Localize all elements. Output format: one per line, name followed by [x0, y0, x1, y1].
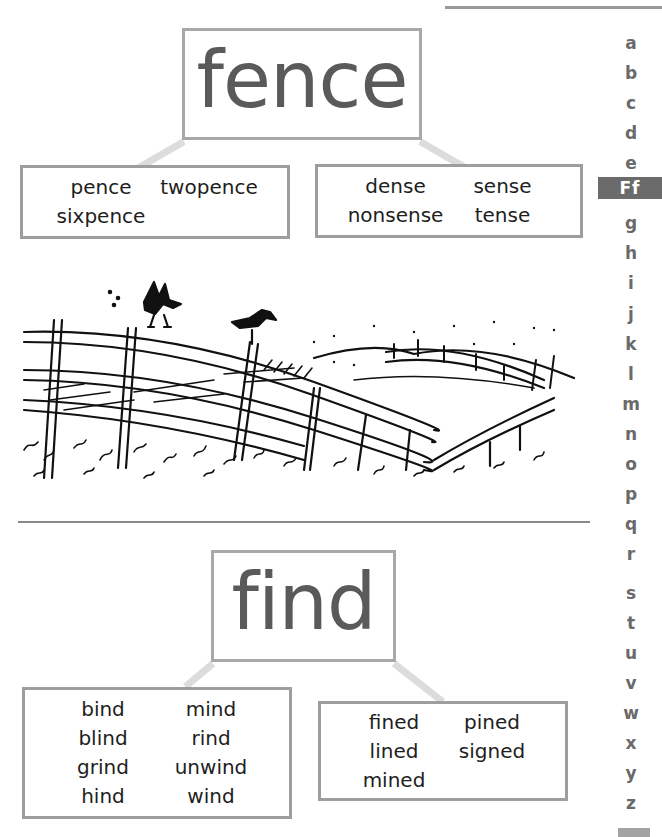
headword: find	[231, 563, 375, 641]
word-group-box: dense sense nonsense tense	[315, 164, 583, 238]
alpha-index-u[interactable]: u	[600, 642, 662, 664]
word: pence	[47, 173, 155, 202]
alpha-index-p[interactable]: p	[600, 483, 662, 505]
word: mined	[345, 766, 443, 795]
headword-box-fence: fence	[182, 28, 422, 140]
word: hind	[49, 782, 157, 811]
alpha-index-m[interactable]: m	[600, 393, 662, 415]
headword: fence	[197, 41, 408, 119]
bird-icon	[232, 310, 276, 344]
alpha-index-i[interactable]: i	[600, 272, 662, 294]
bird-icon	[144, 282, 181, 327]
alpha-index-f-current[interactable]: Ff	[598, 177, 662, 199]
page-tab-marker	[618, 828, 650, 837]
word-group-box: bind mind blind rind grind unwind hind w…	[22, 687, 292, 819]
section-divider	[18, 521, 590, 523]
word: tense	[449, 201, 556, 230]
alpha-index-l[interactable]: l	[600, 363, 662, 385]
alpha-index-a[interactable]: a	[600, 32, 662, 54]
alpha-index-q[interactable]: q	[600, 513, 662, 535]
alpha-index-x[interactable]: x	[600, 732, 662, 754]
word: lined	[345, 737, 443, 766]
word: signed	[443, 737, 541, 766]
word: wind	[157, 782, 265, 811]
word: fined	[345, 708, 443, 737]
fence-illustration	[14, 270, 590, 490]
headword-box-find: find	[211, 550, 396, 662]
alpha-index-k[interactable]: k	[600, 333, 662, 355]
word-group-box: pence twopence sixpence	[20, 165, 290, 239]
connector-line	[392, 661, 445, 705]
alpha-index-b[interactable]: b	[600, 62, 662, 84]
word-group-box: fined pined lined signed mined	[318, 701, 568, 801]
word: mind	[157, 695, 265, 724]
alpha-index-z[interactable]: z	[600, 792, 662, 814]
word: rind	[157, 724, 265, 753]
top-rule	[445, 6, 662, 9]
alpha-index-n[interactable]: n	[600, 423, 662, 445]
alpha-index-w[interactable]: w	[600, 702, 662, 724]
alpha-index-v[interactable]: v	[600, 672, 662, 694]
alpha-index-g[interactable]: g	[600, 212, 662, 234]
alpha-index-j[interactable]: j	[600, 303, 662, 325]
word: nonsense	[342, 201, 449, 230]
alpha-index-e[interactable]: e	[600, 152, 662, 174]
alpha-index-s[interactable]: s	[600, 582, 662, 604]
connector-line	[183, 661, 215, 690]
alpha-index-c[interactable]: c	[600, 92, 662, 114]
word: sixpence	[47, 202, 155, 231]
word: dense	[342, 172, 449, 201]
word: pined	[443, 708, 541, 737]
word: twopence	[155, 173, 263, 202]
word: unwind	[157, 753, 265, 782]
alpha-index-t[interactable]: t	[600, 612, 662, 634]
alpha-index-h[interactable]: h	[600, 242, 662, 264]
word: blind	[49, 724, 157, 753]
word: grind	[49, 753, 157, 782]
alpha-index-o[interactable]: o	[600, 453, 662, 475]
word: bind	[49, 695, 157, 724]
word: sense	[449, 172, 556, 201]
alpha-index-d[interactable]: d	[600, 122, 662, 144]
alpha-index-y[interactable]: y	[600, 762, 662, 784]
alpha-index-r[interactable]: r	[600, 543, 662, 565]
